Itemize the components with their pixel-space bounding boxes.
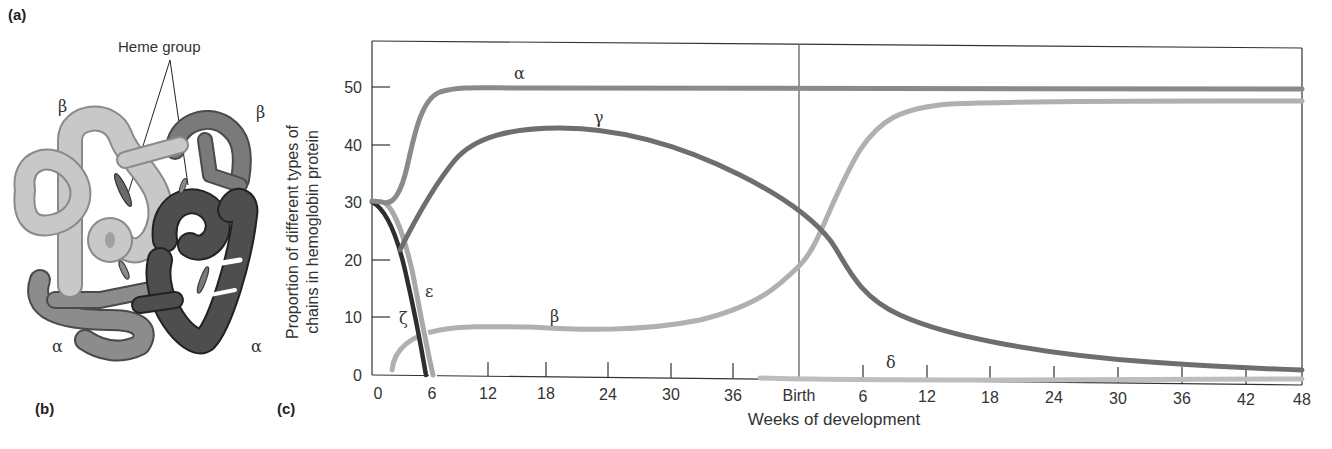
y-tick-label: 30: [344, 194, 362, 211]
x-tick-labels: 0 6 12 18 24 30 36 Birth 6 12 18 24 30 3…: [374, 385, 1311, 408]
figure-canvas: Heme group: [0, 0, 1332, 449]
alpha-subunit-right: [140, 201, 245, 341]
x-tick-label: 12: [479, 385, 497, 402]
x-tick-label: 36: [724, 387, 742, 404]
label-beta: β: [550, 307, 559, 326]
y-tick-label: 10: [344, 309, 362, 326]
hemoglobin-chain-chart: Proportion of different types of chains …: [284, 41, 1311, 429]
x-tick-label: 24: [599, 386, 617, 403]
heme-disc-icon: [112, 172, 134, 208]
subunit-label-beta-right: β: [256, 103, 265, 122]
y-axis-label-line2: chains in hemoglobin protein: [304, 130, 321, 334]
x-tick-label: 6: [428, 385, 437, 402]
heme-group-label: Heme group: [118, 38, 201, 55]
x-tick-label: 12: [918, 388, 936, 405]
y-tick-label: 50: [344, 79, 362, 96]
label-gamma: γ: [594, 108, 604, 127]
x-tick-label-birth: Birth: [783, 387, 816, 404]
label-alpha: α: [514, 64, 525, 83]
hemoglobin-illustration: Heme group: [24, 38, 265, 356]
x-tick-label: 30: [662, 386, 680, 403]
x-tick-label: 36: [1173, 390, 1191, 407]
x-tick-label: 24: [1045, 389, 1063, 406]
y-tick-label: 40: [344, 137, 362, 154]
label-epsilon: ε: [425, 282, 433, 301]
x-tick-label: 48: [1293, 391, 1311, 408]
heme-disc-icon: [195, 266, 210, 294]
y-axis-label-line1: Proportion of different types of: [284, 124, 301, 339]
series-delta-line: [760, 378, 1302, 380]
x-tick-label: 42: [1237, 391, 1255, 408]
series-alpha-line: [372, 88, 1302, 203]
series-curves: [372, 88, 1302, 380]
subunit-label-beta-left: β: [58, 97, 67, 116]
subunit-label-alpha-left: α: [52, 337, 63, 356]
x-tick-label: 0: [374, 385, 383, 402]
label-delta: δ: [886, 353, 896, 372]
x-tick-label: 6: [859, 388, 868, 405]
series-beta-line: [392, 101, 1302, 370]
y-tick-label: 0: [353, 367, 362, 384]
plot-top-border: [372, 41, 1302, 48]
y-tick-labels: 0 10 20 30 40 50: [344, 79, 362, 384]
y-tick-label: 20: [344, 252, 362, 269]
x-axis-label: Weeks of development: [748, 410, 921, 429]
subunit-label-alpha-right: α: [251, 337, 262, 356]
x-tick-label: 18: [537, 385, 555, 402]
x-tick-label: 18: [981, 389, 999, 406]
label-zeta: ζ: [399, 309, 408, 328]
x-tick-label: 30: [1109, 390, 1127, 407]
